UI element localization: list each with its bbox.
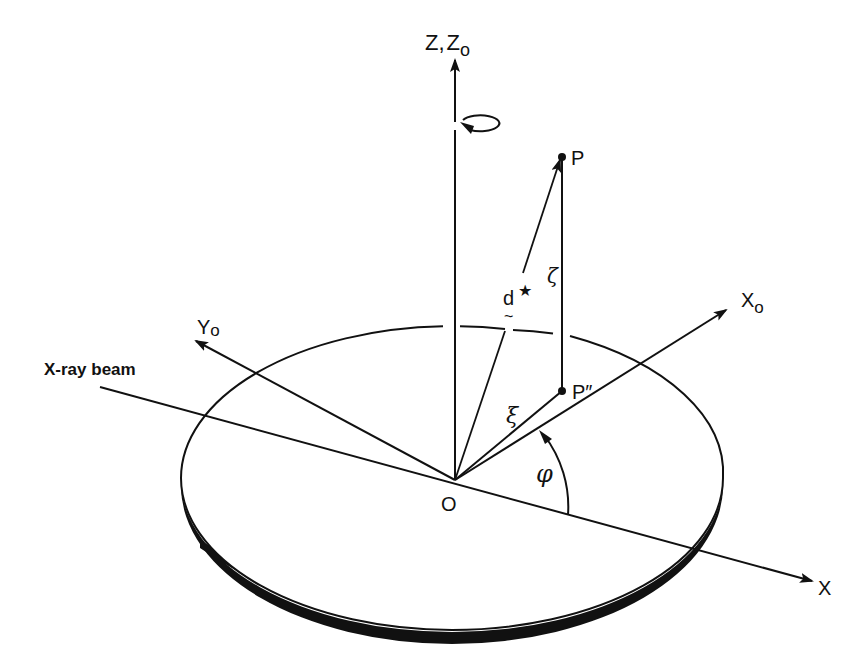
goniometer-geometry-diagram: Z,Zo P P″ Xo Yo X-ray beam X O d ~ ★ ζ ξ… (0, 0, 867, 656)
xi-label: ξ (506, 403, 520, 428)
xray-beam-label: X-ray beam (44, 360, 136, 379)
point-p-proj-dot (558, 387, 566, 395)
x0-axis-label: Xo (741, 289, 764, 317)
x-axis-label: X (818, 577, 831, 599)
phi-label: φ (536, 460, 553, 488)
y0-axis-label: Yo (197, 316, 220, 340)
point-p-dot (558, 153, 566, 161)
origin-label: O (441, 493, 457, 515)
vector-d-label: d (503, 287, 514, 309)
vector-d-tilde: ~ (504, 308, 513, 325)
zeta-label: ζ (547, 264, 559, 288)
star-icon: ★ (518, 282, 532, 299)
z-axis-label: Z,Zo (425, 30, 470, 60)
point-p-label: P (571, 147, 584, 169)
rotation-circle-arrow-icon (460, 115, 499, 134)
point-p-proj-label: P″ (572, 381, 592, 403)
